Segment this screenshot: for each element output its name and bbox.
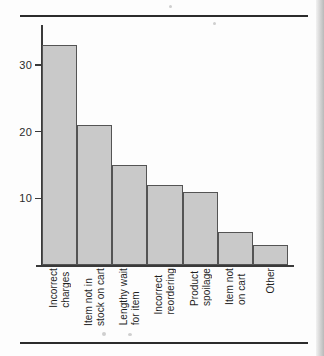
x-axis-tick-label: Other — [253, 268, 288, 342]
x-axis-tick-label-text: Item not on cart — [224, 268, 247, 305]
bar — [77, 125, 112, 265]
bar — [218, 232, 253, 265]
x-axis-line — [36, 265, 294, 267]
y-axis-tick-label: 30 — [8, 59, 32, 71]
x-axis-tick-label: Item not in stock on cart — [77, 268, 112, 342]
x-axis-tick-label-text: Product spoilage — [189, 268, 212, 306]
y-axis-tick-label: 20 — [8, 126, 32, 138]
x-axis-tick-label: Product spoilage — [183, 268, 218, 342]
bar — [112, 165, 147, 265]
y-axis-tick-label-text: 10 — [8, 192, 32, 204]
x-axis-tick-label-text: Lengthy wait for item — [118, 268, 141, 325]
y-axis-tick — [35, 131, 42, 133]
bar-chart: 102030 Incorrect chargesItem not in stoc… — [0, 0, 324, 356]
x-axis-tick-label: Lengthy wait for item — [112, 268, 147, 342]
x-axis-tick-label: Incorrect charges — [42, 268, 77, 342]
scanned-page: 102030 Incorrect chargesItem not in stoc… — [0, 0, 324, 356]
y-axis-tick — [35, 198, 42, 200]
y-axis-tick-label-text: 20 — [8, 126, 32, 138]
bar — [183, 192, 218, 265]
y-axis-tick — [35, 64, 42, 66]
bar — [147, 185, 182, 265]
bar — [42, 45, 77, 265]
bar-series — [42, 25, 288, 265]
y-axis-tick-label: 10 — [8, 192, 32, 204]
x-axis-tick-labels: Incorrect chargesItem not in stock on ca… — [42, 268, 288, 342]
x-axis-tick-label-text: Other — [265, 268, 277, 294]
x-axis-tick-label-text: Incorrect charges — [48, 268, 71, 308]
y-axis-tick-label-text: 30 — [8, 59, 32, 71]
x-axis-tick-label: Item not on cart — [218, 268, 253, 342]
scan-speck — [213, 22, 216, 25]
x-axis-tick-label-text: Incorrect reordering — [153, 268, 176, 315]
x-axis-tick-label: Incorrect reordering — [147, 268, 182, 342]
bar — [253, 245, 288, 265]
scan-speck — [102, 332, 106, 336]
scan-speck — [128, 333, 132, 336]
x-axis-tick-label-text: Item not in stock on cart — [83, 268, 106, 326]
scan-speck — [169, 5, 172, 8]
